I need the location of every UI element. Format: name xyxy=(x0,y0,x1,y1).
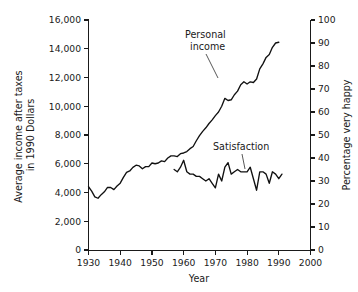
x-tick-label-2000: 2000 xyxy=(299,257,323,268)
annotation-personal-income-line2: income xyxy=(190,41,225,52)
x-axis: 1930 1940 1950 1960 1970 1980 1990 2000 … xyxy=(77,251,323,285)
x-tick-label-1950: 1950 xyxy=(140,257,164,268)
right-tick-label-100: 100 xyxy=(318,14,336,25)
x-tick-label-1980: 1980 xyxy=(235,257,259,268)
annotation-personal-income-label: Personal income xyxy=(185,29,229,52)
annotation-personal-income-leader xyxy=(206,54,218,78)
left-tick-label-10000: 10,000 xyxy=(49,101,81,112)
annotation-satisfaction: Satisfaction xyxy=(213,141,269,169)
right-axis-ticks xyxy=(311,20,316,250)
left-tick-label-16000: 16,000 xyxy=(49,14,81,25)
right-tick-label-20: 20 xyxy=(318,198,330,209)
annotation-satisfaction-label: Satisfaction xyxy=(213,141,269,152)
left-axis: 16,000 14,000 12,000 10,000 8,000 6,000 … xyxy=(13,14,89,255)
series-line-satisfaction xyxy=(174,160,282,190)
left-axis-ticks xyxy=(84,20,89,250)
right-tick-label-50: 50 xyxy=(318,129,330,140)
left-axis-title-text-2: in 1990 Dollars xyxy=(25,99,36,172)
x-tick-label-1930: 1930 xyxy=(77,257,101,268)
x-axis-ticks xyxy=(89,251,311,256)
x-tick-label-1940: 1940 xyxy=(109,257,133,268)
right-tick-label-60: 60 xyxy=(318,106,330,117)
right-tick-label-80: 80 xyxy=(318,60,330,71)
left-axis-tick-labels: 16,000 14,000 12,000 10,000 8,000 6,000 … xyxy=(49,14,81,255)
chart-canvas: 16,000 14,000 12,000 10,000 8,000 6,000 … xyxy=(0,0,358,292)
series-line-personal-income xyxy=(89,42,279,198)
annotation-satisfaction-leader xyxy=(242,154,245,169)
x-axis-title: Year xyxy=(188,273,209,284)
left-axis-title-text: Average income after taxes xyxy=(13,70,24,202)
left-tick-label-14000: 14,000 xyxy=(49,43,81,54)
right-axis-title: Percentage very happy xyxy=(341,79,352,190)
right-tick-label-70: 70 xyxy=(318,83,330,94)
x-tick-label-1960: 1960 xyxy=(172,257,196,268)
x-axis-tick-labels: 1930 1940 1950 1960 1970 1980 1990 2000 xyxy=(77,257,323,268)
right-axis: 100 90 80 70 60 50 40 30 20 10 0 Percent… xyxy=(311,14,353,255)
right-tick-label-0: 0 xyxy=(318,244,324,255)
annotation-personal-income: Personal income xyxy=(185,29,229,78)
left-tick-label-4000: 4,000 xyxy=(55,187,81,198)
left-tick-label-6000: 6,000 xyxy=(55,158,81,169)
annotation-personal-income-line1: Personal xyxy=(185,29,226,40)
right-axis-tick-labels: 100 90 80 70 60 50 40 30 20 10 0 xyxy=(318,14,336,255)
right-tick-label-90: 90 xyxy=(318,37,330,48)
x-tick-label-1970: 1970 xyxy=(204,257,228,268)
left-tick-label-2000: 2,000 xyxy=(55,216,81,227)
right-tick-label-40: 40 xyxy=(318,152,330,163)
chart-figure: 16,000 14,000 12,000 10,000 8,000 6,000 … xyxy=(0,0,358,292)
right-tick-label-10: 10 xyxy=(318,221,330,232)
left-tick-label-8000: 8,000 xyxy=(55,129,81,140)
left-tick-label-12000: 12,000 xyxy=(49,72,81,83)
left-axis-title-line1: Average income after taxes in 1990 Dolla… xyxy=(13,67,36,202)
x-tick-label-1990: 1990 xyxy=(267,257,291,268)
left-tick-label-0: 0 xyxy=(75,244,81,255)
right-tick-label-30: 30 xyxy=(318,175,330,186)
